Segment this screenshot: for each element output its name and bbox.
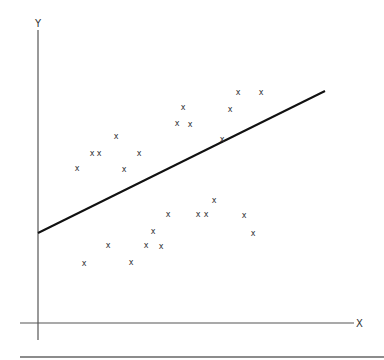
- regression-line: [38, 91, 325, 233]
- data-point-marker: x: [196, 210, 201, 219]
- data-point-marker: x: [151, 227, 156, 236]
- data-point-marker: x: [242, 211, 247, 220]
- data-point-marker: x: [90, 149, 95, 158]
- data-point-marker: x: [166, 210, 171, 219]
- data-point-marker: x: [159, 242, 164, 251]
- x-axis-label: X: [356, 318, 363, 329]
- y-axis-label: Y: [34, 18, 42, 29]
- data-point-marker: x: [82, 259, 87, 268]
- data-point-marker: x: [228, 105, 233, 114]
- data-point-marker: x: [181, 103, 186, 112]
- data-point-marker: x: [188, 120, 193, 129]
- data-point-marker: x: [212, 196, 217, 205]
- data-point-marker: x: [137, 149, 142, 158]
- data-points: xxxxxxxxxxxxxxxxxxxxxxxxx: [75, 88, 264, 268]
- data-point-marker: x: [114, 132, 119, 141]
- data-point-marker: x: [220, 135, 225, 144]
- data-point-marker: x: [259, 88, 264, 97]
- data-point-marker: x: [129, 258, 134, 267]
- data-point-marker: x: [97, 149, 102, 158]
- data-point-marker: x: [251, 229, 256, 238]
- scatter-plot: Y X xxxxxxxxxxxxxxxxxxxxxxxxx: [0, 0, 384, 360]
- data-point-marker: x: [175, 119, 180, 128]
- data-point-marker: x: [204, 210, 209, 219]
- data-point-marker: x: [106, 241, 111, 250]
- data-point-marker: x: [122, 165, 127, 174]
- data-point-marker: x: [236, 88, 241, 97]
- data-point-marker: x: [75, 164, 80, 173]
- data-point-marker: x: [144, 241, 149, 250]
